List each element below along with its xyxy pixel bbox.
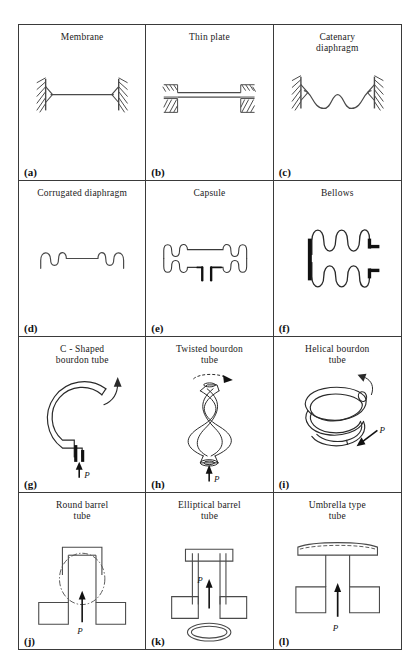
panel-label: (l) [279, 635, 289, 647]
panel-label: (e) [151, 322, 163, 334]
panel-l-umbrella-type-tube: Umbrella type tube P [274, 493, 401, 649]
panel-b-thin-plate: Thin plate [146, 25, 273, 181]
panel-a-membrane: Membrane (a) [19, 25, 146, 181]
panel-k-elliptical-barrel-tube: Elliptical barrel tube [146, 493, 273, 649]
panel-d-corrugated-diaphragm: Corrugated diaphragm (d) [19, 181, 146, 337]
panel-label: (g) [24, 478, 37, 490]
panel-label: (f) [279, 322, 290, 334]
pressure-symbol: P [213, 474, 220, 484]
pressure-symbol: P [197, 575, 204, 585]
panel-label: (j) [24, 635, 35, 647]
panel-label: (i) [279, 478, 289, 490]
panel-f-bellows: Bellows (f) [274, 181, 401, 337]
panel-c-catenary-diaphragm: Catenary diaphragm (c) [274, 25, 401, 181]
pressure-symbol: P [378, 425, 385, 435]
pressure-symbol: P [76, 626, 83, 636]
panel-j-round-barrel-tube: Round barrel tube [19, 493, 146, 649]
thin-plate-diagram [146, 25, 272, 180]
panel-label: (h) [151, 478, 164, 490]
bellows-diagram [274, 181, 401, 336]
catenary-diaphragm-diagram [274, 25, 401, 180]
panel-i-helical-bourdon-tube: Helical bourdon tube [274, 337, 401, 493]
pressure-symbol: P [83, 470, 90, 480]
elliptical-barrel-tube-diagram: P [146, 493, 272, 649]
capsule-diagram [146, 181, 272, 336]
panel-label: (k) [151, 635, 164, 647]
panel-label: (b) [151, 166, 164, 178]
panel-label: (a) [24, 166, 37, 178]
c-shaped-bourdon-tube-diagram: P [19, 337, 145, 492]
helical-bourdon-tube-diagram: P [274, 337, 401, 492]
panel-e-capsule: Capsule (e) [146, 181, 273, 337]
pressure-element-figure-grid: Membrane (a) Thin [18, 24, 402, 650]
panel-h-twisted-bourdon-tube: Twisted bourdon tube [146, 337, 273, 493]
panel-label: (d) [24, 322, 37, 334]
membrane-diagram [19, 25, 145, 180]
corrugated-diaphragm-diagram [19, 181, 145, 336]
pressure-symbol: P [331, 623, 338, 633]
round-barrel-tube-diagram: P [19, 493, 145, 649]
umbrella-type-tube-diagram: P [274, 493, 401, 649]
panel-g-c-shaped-bourdon-tube: C - Shaped bourdon tube [19, 337, 146, 493]
twisted-bourdon-tube-diagram: P [146, 337, 272, 492]
panel-label: (c) [279, 166, 291, 178]
